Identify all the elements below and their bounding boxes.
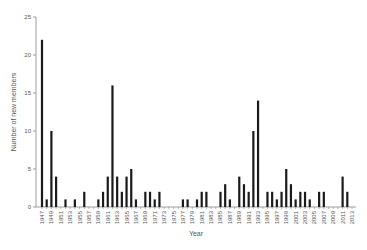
bar-1981 bbox=[201, 192, 203, 207]
bar-1972 bbox=[158, 192, 160, 207]
bar-2012 bbox=[346, 192, 348, 207]
x-tick-label: 1969 bbox=[142, 210, 148, 224]
bar-1964 bbox=[121, 192, 123, 207]
bar-1965 bbox=[125, 177, 127, 207]
x-tick-label: 1983 bbox=[208, 210, 214, 224]
bar-1970 bbox=[149, 192, 151, 207]
bar-1959 bbox=[97, 199, 99, 207]
bar-1995 bbox=[266, 192, 268, 207]
bar-2006 bbox=[318, 192, 320, 207]
y-tick-label: 5 bbox=[28, 166, 32, 172]
bar-1956 bbox=[83, 192, 85, 207]
x-tick-label: 1997 bbox=[274, 210, 280, 224]
x-tick-label: 2001 bbox=[293, 210, 299, 224]
bar-1998 bbox=[280, 192, 282, 207]
bar-2007 bbox=[323, 192, 325, 207]
x-tick-label: 1991 bbox=[246, 210, 252, 224]
x-tick-label: 1985 bbox=[217, 210, 223, 224]
bar-1966 bbox=[130, 169, 132, 207]
bar-1960 bbox=[102, 192, 104, 207]
x-axis-title: Year bbox=[189, 230, 204, 237]
bar-1969 bbox=[144, 192, 146, 207]
bar-1977 bbox=[182, 199, 184, 207]
bar-1947 bbox=[41, 40, 43, 207]
x-tick-label: 2009 bbox=[330, 210, 336, 224]
x-tick-label: 1951 bbox=[58, 210, 64, 224]
bar-1996 bbox=[271, 192, 273, 207]
x-tick-label: 1955 bbox=[77, 210, 83, 224]
bar-1963 bbox=[116, 177, 118, 207]
bar-1954 bbox=[74, 199, 76, 207]
y-tick-label: 15 bbox=[24, 90, 31, 96]
x-axis: 1947194919511953195519571959196119631965… bbox=[36, 207, 356, 224]
x-tick-label: 1947 bbox=[39, 210, 45, 224]
x-tick-label: 1987 bbox=[227, 210, 233, 224]
x-tick-label: 1963 bbox=[114, 210, 120, 224]
x-tick-label: 1965 bbox=[124, 210, 130, 224]
bar-2002 bbox=[299, 192, 301, 207]
bar-1990 bbox=[243, 184, 245, 207]
bar-1950 bbox=[55, 177, 57, 207]
bar-1962 bbox=[111, 85, 113, 207]
x-tick-label: 1981 bbox=[199, 210, 205, 224]
y-axis: 0510152025 bbox=[24, 14, 36, 210]
x-tick-label: 1953 bbox=[67, 210, 73, 224]
x-tick-label: 1989 bbox=[236, 210, 242, 224]
x-tick-label: 1993 bbox=[255, 210, 261, 224]
bar-1991 bbox=[248, 192, 250, 207]
bar-2000 bbox=[290, 184, 292, 207]
bar-2011 bbox=[342, 177, 344, 207]
x-tick-label: 2011 bbox=[340, 210, 346, 224]
bar-1992 bbox=[252, 131, 254, 207]
y-tick-label: 25 bbox=[24, 14, 31, 20]
bar-1999 bbox=[285, 169, 287, 207]
x-tick-label: 1959 bbox=[95, 210, 101, 224]
x-tick-label: 1971 bbox=[152, 210, 158, 224]
x-tick-label: 1973 bbox=[161, 210, 167, 224]
x-tick-label: 1967 bbox=[133, 210, 139, 224]
bar-1948 bbox=[46, 199, 48, 207]
x-tick-label: 1961 bbox=[105, 210, 111, 224]
bar-1952 bbox=[64, 199, 66, 207]
bar-2003 bbox=[304, 192, 306, 207]
bar-1985 bbox=[219, 192, 221, 207]
x-tick-label: 2007 bbox=[321, 210, 327, 224]
bar-1997 bbox=[276, 199, 278, 207]
x-tick-label: 1995 bbox=[264, 210, 270, 224]
bar-1980 bbox=[196, 199, 198, 207]
bar-1971 bbox=[154, 199, 156, 207]
bar-1967 bbox=[135, 199, 137, 207]
x-tick-label: 1949 bbox=[48, 210, 54, 224]
x-tick-label: 1979 bbox=[189, 210, 195, 224]
bar-1978 bbox=[187, 199, 189, 207]
bar-2001 bbox=[295, 199, 297, 207]
bar-2004 bbox=[309, 199, 311, 207]
x-tick-label: 2003 bbox=[302, 210, 308, 224]
bar-1986 bbox=[224, 184, 226, 207]
y-axis-title: Number of new members bbox=[10, 72, 17, 151]
y-tick-label: 20 bbox=[24, 52, 31, 58]
bar-chart: 0510152025 19471949195119531955195719591… bbox=[0, 0, 367, 250]
x-tick-label: 2005 bbox=[311, 210, 317, 224]
bar-1961 bbox=[107, 177, 109, 207]
bar-1993 bbox=[257, 101, 259, 207]
x-tick-label: 1977 bbox=[180, 210, 186, 224]
x-tick-label: 1975 bbox=[171, 210, 177, 224]
x-tick-label: 2013 bbox=[349, 210, 355, 224]
bar-1987 bbox=[229, 199, 231, 207]
bar-1982 bbox=[205, 192, 207, 207]
x-tick-label: 1999 bbox=[283, 210, 289, 224]
bar-1949 bbox=[50, 131, 52, 207]
y-tick-label: 0 bbox=[28, 204, 32, 210]
bars-group bbox=[41, 40, 349, 207]
y-tick-label: 10 bbox=[24, 128, 31, 134]
x-tick-label: 1957 bbox=[86, 210, 92, 224]
bar-1989 bbox=[238, 177, 240, 207]
